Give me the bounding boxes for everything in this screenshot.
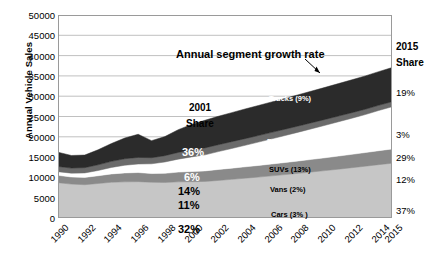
chart-container: Annual Vehicle Sales 0500010000150002000… — [0, 0, 432, 271]
x-axis-tick-labels: 1990199219941996199820002002200420062008… — [0, 0, 432, 271]
